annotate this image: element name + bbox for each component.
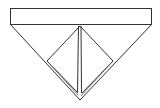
fold-diagram xyxy=(0,0,160,108)
center-crease-right xyxy=(81,26,82,93)
inner-diamond-flap-left-edge xyxy=(49,63,78,95)
top-band xyxy=(11,9,152,25)
center-crease-left xyxy=(78,26,79,93)
inner-diamond-flap-right-edge xyxy=(81,63,111,96)
